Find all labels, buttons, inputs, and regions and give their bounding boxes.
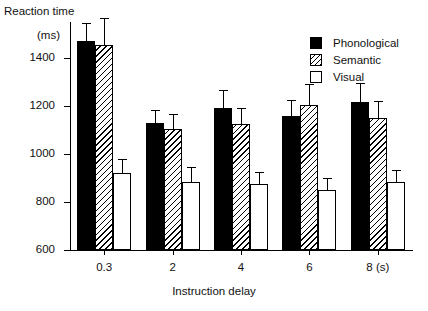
bar-semantic-1: [164, 129, 182, 250]
error-bar-stem: [396, 170, 397, 182]
error-bar-stem: [104, 18, 105, 44]
y-axis-tick: 800: [64, 202, 70, 203]
bar-semantic-0: [95, 45, 113, 250]
y-axis-tick-label: 1000: [29, 147, 55, 159]
x-axis-tick: [104, 250, 105, 255]
bar-visual-2: [250, 184, 268, 250]
y-axis-tick: 1400: [64, 58, 70, 59]
legend-swatch-semantic: [310, 54, 322, 66]
error-bar-stem: [327, 178, 328, 190]
bar-semantic-2: [232, 124, 250, 250]
x-axis-tick-label: 8 (s): [366, 261, 389, 273]
bar-visual-3: [318, 190, 336, 250]
error-bar-stem: [360, 83, 361, 102]
error-bar-stem: [173, 114, 174, 128]
x-axis-tick: [241, 250, 242, 255]
x-axis-tick: [173, 250, 174, 255]
y-axis-tick: 600: [64, 250, 70, 251]
legend-swatch-visual: [310, 71, 322, 83]
error-bar-stem: [86, 23, 87, 41]
y-axis-line: [70, 22, 71, 251]
legend-item-semantic: Semantic: [310, 51, 399, 68]
bar-visual-4: [387, 182, 405, 250]
legend-item-phonological: Phonological: [310, 34, 399, 51]
x-axis-tick: [309, 250, 310, 255]
x-axis-tick-label: 2: [169, 261, 175, 273]
bar-phonological-3: [282, 116, 300, 250]
error-bar-stem: [309, 84, 310, 104]
error-bar-stem: [122, 159, 123, 173]
x-axis-tick-label: 4: [238, 261, 244, 273]
error-bar-cap: [82, 23, 91, 24]
error-bar-cap: [219, 90, 228, 91]
reaction-time-bar-chart: Reaction time (ms) 600800100012001400 0.…: [0, 0, 428, 311]
legend-label: Semantic: [333, 54, 381, 66]
error-bar-cap: [187, 167, 196, 168]
y-axis-tick-label: 1200: [29, 99, 55, 111]
bar-phonological-1: [146, 123, 164, 250]
legend-item-visual: Visual: [310, 68, 399, 85]
error-bar-stem: [223, 90, 224, 108]
error-bar-cap: [237, 108, 246, 109]
bar-visual-1: [182, 182, 200, 250]
error-bar-stem: [241, 108, 242, 124]
error-bar-stem: [191, 167, 192, 181]
bar-semantic-4: [369, 118, 387, 250]
bar-phonological-2: [214, 108, 232, 250]
bar-phonological-4: [351, 102, 369, 250]
legend-swatch-phonological: [310, 37, 322, 49]
bar-visual-0: [113, 173, 131, 250]
error-bar-cap: [151, 110, 160, 111]
error-bar-cap: [374, 101, 383, 102]
y-axis-tick-label: 600: [36, 243, 55, 255]
y-axis-tick-label: 800: [36, 195, 55, 207]
legend-label: Phonological: [333, 37, 399, 49]
error-bar-cap: [169, 114, 178, 115]
error-bar-stem: [259, 172, 260, 184]
error-bar-cap: [255, 172, 264, 173]
x-axis-tick-label: 0.3: [96, 261, 112, 273]
x-axis-title: Instruction delay: [0, 285, 428, 297]
y-axis-unit-label: (ms): [37, 29, 60, 41]
bar-phonological-0: [77, 41, 95, 250]
y-axis-tick-label: 1400: [29, 51, 55, 63]
x-axis-tick-label: 6: [306, 261, 312, 273]
error-bar-cap: [287, 100, 296, 101]
error-bar-cap: [100, 18, 109, 19]
error-bar-stem: [378, 101, 379, 118]
x-axis-tick: [378, 250, 379, 255]
y-axis-tick: 1000: [64, 154, 70, 155]
error-bar-stem: [291, 100, 292, 116]
chart-legend: PhonologicalSemanticVisual: [310, 34, 399, 85]
y-axis-tick: 1200: [64, 106, 70, 107]
y-axis-title: Reaction time: [4, 5, 74, 17]
error-bar-cap: [392, 170, 401, 171]
bar-semantic-3: [300, 105, 318, 250]
error-bar-cap: [118, 159, 127, 160]
error-bar-cap: [323, 178, 332, 179]
legend-label: Visual: [333, 71, 364, 83]
error-bar-stem: [155, 110, 156, 123]
